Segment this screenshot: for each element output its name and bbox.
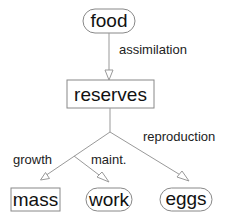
node-food: food [83, 9, 135, 33]
eggs-label: eggs [165, 188, 206, 209]
reproduction-label: reproduction [143, 129, 215, 144]
reserves-label: reserves [74, 84, 147, 105]
arrow-head-icon [105, 70, 113, 80]
node-mass: mass [11, 188, 60, 211]
work-label: work [88, 189, 130, 210]
edge-maint: maint. [74, 152, 126, 182]
arrow-head-icon [97, 172, 109, 182]
diagram-canvas: food assimilation reserves growth maint.… [0, 0, 231, 220]
assimilation-label: assimilation [119, 42, 187, 57]
growth-label: growth [13, 152, 52, 167]
edge-assimilation: assimilation [105, 33, 187, 80]
food-label: food [91, 10, 128, 31]
arrow-head-icon [177, 171, 189, 181]
maint-label: maint. [91, 152, 126, 167]
mass-label: mass [13, 189, 58, 210]
node-eggs: eggs [160, 188, 212, 211]
node-work: work [86, 188, 132, 211]
node-reserves: reserves [67, 80, 154, 108]
